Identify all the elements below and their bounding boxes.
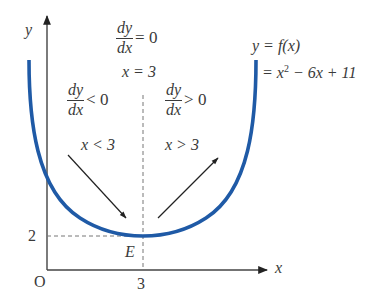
derivative-numerator: dy [67,82,84,99]
x-tick-3: 3 [137,276,145,292]
derivative-negative-annotation: dy dx < 0 [67,82,108,119]
derivative-denominator: dx [67,102,84,119]
derivative-denominator: dx [116,40,133,57]
derivative-numerator: dy [116,20,133,37]
function-expression: = x2 − 6x + 11 [262,64,356,81]
decreasing-arrow [68,155,126,218]
stationary-condition: x = 3 [122,64,156,80]
derivative-denominator: dx [165,102,182,119]
function-label: y = f(x) [252,38,300,54]
derivative-relation: = 0 [135,28,157,48]
derivative-numerator: dy [165,82,182,99]
origin-label: O [34,274,46,290]
increasing-condition: x > 3 [165,137,199,153]
derivative-zero-annotation: dy dx = 0 [116,20,157,57]
decreasing-condition: x < 3 [81,137,115,153]
vertex-label: E [125,244,135,260]
x-axis-label: x [275,260,282,276]
y-axis-label: y [25,22,32,38]
y-tick-2: 2 [28,228,36,244]
increasing-arrow [158,158,218,218]
derivative-positive-annotation: dy dx > 0 [165,82,206,119]
derivative-relation: < 0 [86,90,108,110]
derivative-relation: > 0 [184,90,206,110]
function-expression-suffix: − 6x + 11 [289,64,357,81]
function-expression-prefix: = x [262,64,284,81]
